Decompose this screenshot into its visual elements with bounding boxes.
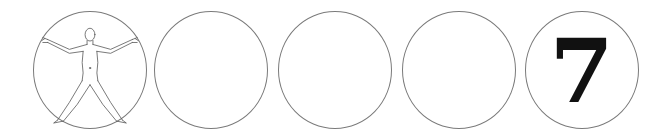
circle-4-empty [402,11,516,129]
circle-3-empty [278,11,392,129]
numeral-seven: 7 [550,27,614,115]
circle-2-empty [154,11,268,129]
circle-5-numeral: 7 [525,11,639,129]
circle-1-human-figure [33,11,147,129]
human-figure-icon [34,12,146,128]
